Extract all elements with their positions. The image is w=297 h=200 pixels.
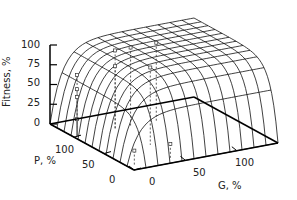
z-axis-label: Fitness, % xyxy=(2,57,12,108)
z-tick-50: 50 xyxy=(14,78,40,88)
g-tick-0: 0 xyxy=(149,177,155,187)
fitness-surface-chart xyxy=(0,0,297,200)
z-tick-0: 0 xyxy=(14,118,40,128)
p-tick-0: 0 xyxy=(109,175,115,185)
g-tick-100: 100 xyxy=(235,158,254,168)
g-axis-label: G, % xyxy=(218,181,242,191)
fitness-surface xyxy=(50,18,278,170)
p-axis-label: P, % xyxy=(34,156,56,166)
z-tick-75: 75 xyxy=(14,59,40,69)
z-tick-25: 25 xyxy=(14,98,40,108)
z-tick-100: 100 xyxy=(14,40,40,50)
p-tick-50: 50 xyxy=(82,160,95,170)
p-tick-100: 100 xyxy=(55,145,74,155)
g-tick-50: 50 xyxy=(193,168,206,178)
